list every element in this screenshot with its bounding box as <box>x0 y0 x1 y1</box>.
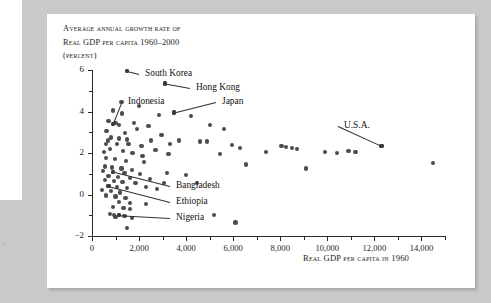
data-point <box>323 150 327 154</box>
data-point <box>106 119 110 123</box>
x-tick-4000 <box>186 237 187 241</box>
data-point <box>110 165 114 169</box>
annotation-label-u-s-a: U.S.A. <box>344 120 370 130</box>
x-tick-10000 <box>327 237 328 241</box>
x-tick-label-6000: 6,000 <box>210 243 256 253</box>
data-point <box>130 151 134 155</box>
annotated-data-point <box>379 144 383 148</box>
figure-page: 6 Average annual growth rate of Real GDP… <box>0 0 491 303</box>
data-point <box>117 136 121 140</box>
y-axis-title: Average annual growth rate of Real GDP p… <box>63 22 180 63</box>
data-point <box>103 164 107 168</box>
data-point <box>104 129 108 133</box>
annotation-label-japan: Japan <box>222 96 243 106</box>
data-point <box>120 111 124 115</box>
data-point <box>139 144 143 148</box>
data-point <box>159 133 163 137</box>
data-point <box>117 200 121 204</box>
x-tick-2000 <box>139 237 140 241</box>
y-tick-label-0: 0 <box>62 189 84 199</box>
x-tick-12000 <box>374 237 375 241</box>
data-point <box>135 127 139 131</box>
x-minor-tick-13000 <box>398 237 399 240</box>
data-point <box>177 138 181 142</box>
data-point <box>123 196 127 200</box>
data-point <box>290 146 294 150</box>
data-point <box>140 154 144 158</box>
x-tick-label-8000: 8,000 <box>257 243 303 253</box>
y-axis-title-line-2: Real GDP per capita 1960–2000 <box>63 36 180 50</box>
x-tick-label-0: 0 <box>69 243 115 253</box>
data-point <box>115 142 119 146</box>
page-folio: 6 <box>2 240 6 248</box>
data-point <box>233 220 237 224</box>
data-point <box>126 142 130 146</box>
y-tick-label-6: 6 <box>62 64 84 74</box>
data-point <box>111 205 115 209</box>
data-point <box>116 175 120 179</box>
data-point <box>279 144 283 148</box>
x-minor-tick-1000 <box>116 237 117 240</box>
data-point <box>108 212 112 216</box>
data-point <box>128 201 132 205</box>
data-point <box>208 123 212 127</box>
data-point <box>168 142 172 146</box>
y-axis-title-line-1: Average annual growth rate of <box>63 22 180 36</box>
y-tick-label-2: 2 <box>62 147 84 157</box>
data-point <box>335 151 339 155</box>
y-tick-label-4: 4 <box>62 106 84 116</box>
data-point <box>149 138 153 142</box>
page-edge-box <box>0 0 22 200</box>
data-point <box>222 127 226 131</box>
data-point <box>166 152 170 156</box>
x-axis-title: Real GDP per capita in 1960 <box>303 253 409 263</box>
data-point <box>128 207 132 211</box>
x-minor-tick-15000 <box>445 237 446 240</box>
x-tick-label-2000: 2,000 <box>116 243 162 253</box>
data-point <box>120 180 124 184</box>
data-point <box>133 181 137 185</box>
annotation-label-hong-kong: Hong Kong <box>196 82 240 92</box>
x-minor-tick-7000 <box>257 237 258 240</box>
annotated-data-point <box>111 170 115 174</box>
x-tick-label-14000: 14,000 <box>398 243 444 253</box>
x-tick-8000 <box>280 237 281 241</box>
data-point <box>130 168 134 172</box>
annotation-label-nigeria: Nigeria <box>176 212 204 222</box>
data-point <box>346 149 350 153</box>
data-point <box>121 206 125 210</box>
data-point <box>125 137 129 141</box>
x-minor-tick-11000 <box>351 237 352 240</box>
data-point <box>113 194 117 198</box>
data-point <box>353 150 357 154</box>
x-tick-6000 <box>233 237 234 241</box>
x-tick-label-12000: 12,000 <box>351 243 397 253</box>
x-minor-tick-3000 <box>163 237 164 240</box>
annotation-label-indonesia: Indonesia <box>128 96 164 106</box>
annotation-label-bangladesh: Bangladesh <box>176 180 220 190</box>
data-point <box>111 108 115 112</box>
data-point <box>106 138 110 142</box>
annotated-data-point <box>106 184 110 188</box>
data-point <box>106 174 110 178</box>
x-tick-label-10000: 10,000 <box>304 243 350 253</box>
x-tick-0 <box>92 237 93 241</box>
data-point <box>119 166 123 170</box>
data-point <box>230 143 234 147</box>
y-axis-title-line-3: (percent) <box>63 49 180 63</box>
data-point <box>157 113 161 117</box>
data-point <box>146 124 150 128</box>
data-point <box>304 166 308 170</box>
data-point <box>104 193 108 197</box>
data-point <box>198 139 202 143</box>
data-point <box>189 114 193 118</box>
scatter-plot-area <box>92 70 445 236</box>
y-tick-label--2: −2 <box>62 230 84 240</box>
x-axis-line <box>92 236 446 237</box>
x-tick-label-4000: 4,000 <box>163 243 209 253</box>
x-minor-tick-9000 <box>304 237 305 240</box>
data-point <box>153 148 157 152</box>
data-point <box>295 147 299 151</box>
data-point <box>244 162 248 166</box>
annotated-data-point <box>163 81 167 85</box>
